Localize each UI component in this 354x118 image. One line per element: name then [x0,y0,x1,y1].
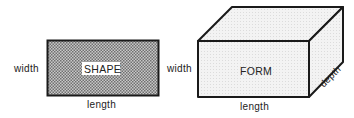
shape-title: SHAPE [84,64,121,74]
form-width-label: width [167,64,192,74]
form-length-label: length [240,102,269,112]
shape-width-label: width [14,64,39,74]
form-title: FORM [240,66,272,76]
shape-length-label: length [87,100,116,110]
diagram-canvas [0,0,354,118]
